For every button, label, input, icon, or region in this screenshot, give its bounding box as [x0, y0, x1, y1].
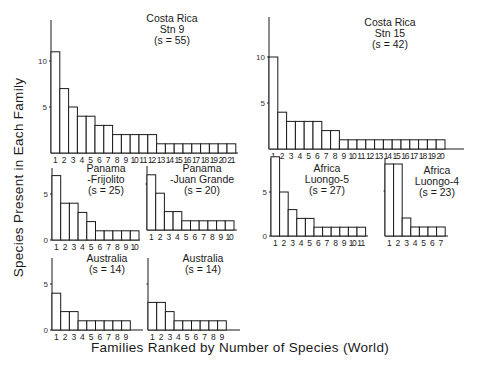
x-tick-label: 17	[410, 151, 419, 161]
bar	[304, 121, 313, 149]
x-tick-label: 11	[139, 155, 148, 165]
x-tick-label: 9	[341, 151, 346, 161]
x-tick-label: 2	[280, 151, 285, 161]
x-tick-label: 18	[419, 151, 428, 161]
bar	[157, 302, 166, 330]
bar	[366, 140, 375, 149]
x-tick-label: 5	[421, 238, 426, 248]
bar	[183, 321, 192, 330]
bar	[96, 321, 105, 330]
x-tick-label: 1	[54, 242, 59, 252]
x-tick-label: 11	[357, 238, 365, 248]
bar	[51, 52, 60, 153]
x-tick-label: 16	[401, 151, 410, 161]
bar	[340, 227, 349, 236]
bar	[69, 203, 78, 240]
x-tick-label: 8	[333, 238, 338, 248]
x-tick-label: 2	[396, 238, 401, 248]
y-tick-label: 10	[256, 53, 265, 62]
x-tick-label: 20	[436, 151, 445, 161]
bar	[348, 227, 357, 236]
bar	[78, 212, 87, 240]
bar	[288, 210, 297, 236]
bar	[96, 231, 105, 240]
bar	[225, 221, 234, 230]
x-tick-label: 8	[210, 232, 215, 242]
x-tick-label: 7	[439, 238, 444, 248]
bar	[331, 131, 340, 149]
bar	[147, 175, 156, 230]
bar	[287, 121, 296, 149]
bar	[271, 157, 280, 236]
bar	[218, 144, 227, 153]
bar	[199, 221, 208, 230]
y-tick-label: 5	[44, 190, 49, 199]
bar	[69, 312, 78, 330]
x-tick-label: 8	[115, 242, 120, 252]
bar	[183, 144, 192, 153]
y-tick-label: 10	[38, 57, 47, 66]
bar	[331, 227, 340, 236]
bar	[156, 193, 165, 230]
bar	[348, 140, 357, 149]
bar	[437, 227, 446, 236]
bar	[394, 164, 403, 236]
x-tick-label: 11	[357, 151, 366, 161]
bar	[191, 221, 200, 230]
bar	[78, 321, 87, 330]
panel-title: (s = 20)	[184, 184, 220, 196]
x-tick-label: 6	[316, 238, 321, 248]
x-tick-label: 4	[175, 232, 180, 242]
bar	[436, 140, 445, 149]
x-tick-label: 3	[71, 242, 76, 252]
bar	[174, 321, 183, 330]
bar	[314, 227, 323, 236]
bar	[410, 140, 419, 149]
y-tick-label: 0	[44, 326, 49, 335]
bar	[113, 321, 122, 330]
x-tick-label: 15	[392, 151, 401, 161]
bar	[427, 140, 436, 149]
bar	[86, 116, 95, 153]
bar	[165, 144, 174, 153]
panel-title: (s = 14)	[185, 263, 221, 275]
bar	[209, 321, 218, 330]
x-tick-label: 8	[333, 151, 338, 161]
x-tick-label: 6	[97, 242, 102, 252]
bar	[104, 125, 113, 153]
x-tick-label: 3	[290, 238, 295, 248]
bar	[77, 116, 86, 153]
bar	[297, 218, 306, 236]
x-tick-label: 2	[62, 155, 67, 165]
bar	[428, 227, 437, 236]
bar	[130, 135, 139, 153]
y-axis-label: Species Present in Each Family	[11, 68, 26, 288]
bar	[174, 144, 183, 153]
x-tick-label: 6	[315, 151, 320, 161]
bar	[208, 221, 217, 230]
bar	[357, 227, 366, 236]
panel-title: (s = 23)	[419, 186, 455, 198]
bar	[322, 131, 331, 149]
bar	[87, 321, 96, 330]
bar	[173, 212, 182, 230]
panel-title: (s = 25)	[88, 184, 124, 196]
bar	[87, 222, 96, 240]
chart-panel-2: 5101234567891011121314151617181920Costa …	[256, 16, 464, 161]
bar	[392, 140, 401, 149]
x-tick-label: 9	[342, 238, 347, 248]
bar	[385, 164, 394, 236]
x-tick-label: 2	[63, 242, 68, 252]
x-tick-label: 1	[53, 155, 58, 165]
x-tick-label: 6	[430, 238, 435, 248]
x-tick-label: 9	[219, 232, 224, 242]
x-tick-label: 7	[201, 232, 206, 242]
x-tick-label: 13	[375, 151, 384, 161]
y-tick-label: 5	[263, 188, 268, 197]
bar	[121, 135, 130, 153]
bar	[218, 321, 227, 330]
bar	[182, 221, 191, 230]
bar	[95, 125, 104, 153]
x-tick-label: 4	[80, 242, 85, 252]
panel-title: (s = 55)	[154, 34, 190, 46]
